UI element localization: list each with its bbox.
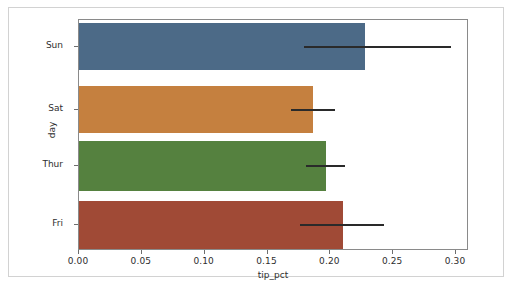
- x-tick-mark: [141, 250, 142, 254]
- x-tick-label: 0.15: [247, 256, 287, 266]
- x-tick-mark: [204, 250, 205, 254]
- x-tick-label: 0.05: [121, 256, 161, 266]
- y-tick-label-sat: Sat: [0, 103, 68, 113]
- error-bar-sat: [291, 109, 335, 111]
- y-tick-mark: [74, 109, 78, 110]
- error-bar-sun: [304, 46, 451, 48]
- error-bar-thur: [306, 165, 345, 167]
- x-tick-mark: [267, 250, 268, 254]
- y-tick-mark: [74, 46, 78, 47]
- bar-sat: [79, 86, 313, 133]
- error-bar-fri: [300, 224, 384, 226]
- x-tick-label: 0.25: [372, 256, 412, 266]
- y-tick-label-sun: Sun: [0, 40, 68, 50]
- y-tick-label-fri: Fri: [0, 218, 68, 228]
- x-tick-label: 0.30: [435, 256, 475, 266]
- y-tick-mark: [74, 224, 78, 225]
- x-tick-mark: [455, 250, 456, 254]
- bar-thur: [79, 141, 326, 191]
- x-tick-label: 0.00: [58, 256, 98, 266]
- x-tick-mark: [392, 250, 393, 254]
- matplotlib-figure: 0.000.050.100.150.200.250.30 SunSatThurF…: [0, 0, 512, 292]
- x-axis-label: tip_pct: [78, 270, 468, 280]
- x-tick-mark: [78, 250, 79, 254]
- y-tick-label-thur: Thur: [0, 159, 68, 169]
- y-tick-mark: [74, 165, 78, 166]
- x-tick-mark: [329, 250, 330, 254]
- x-tick-label: 0.20: [309, 256, 349, 266]
- y-axis-label: day: [47, 122, 57, 139]
- plot-axes-area: [78, 19, 468, 250]
- x-tick-label: 0.10: [184, 256, 224, 266]
